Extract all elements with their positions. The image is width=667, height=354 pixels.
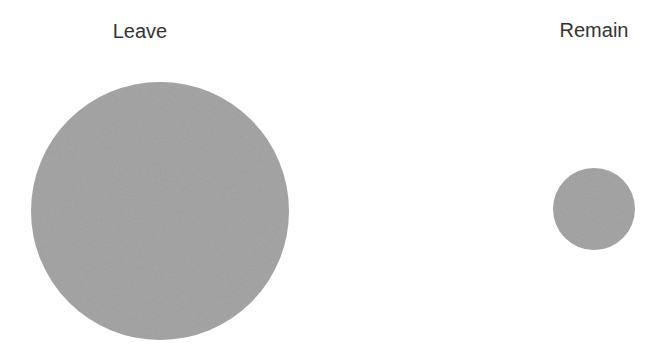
bubble-chart <box>0 0 667 354</box>
leave-circle <box>31 82 289 340</box>
remain-circle <box>553 168 635 250</box>
